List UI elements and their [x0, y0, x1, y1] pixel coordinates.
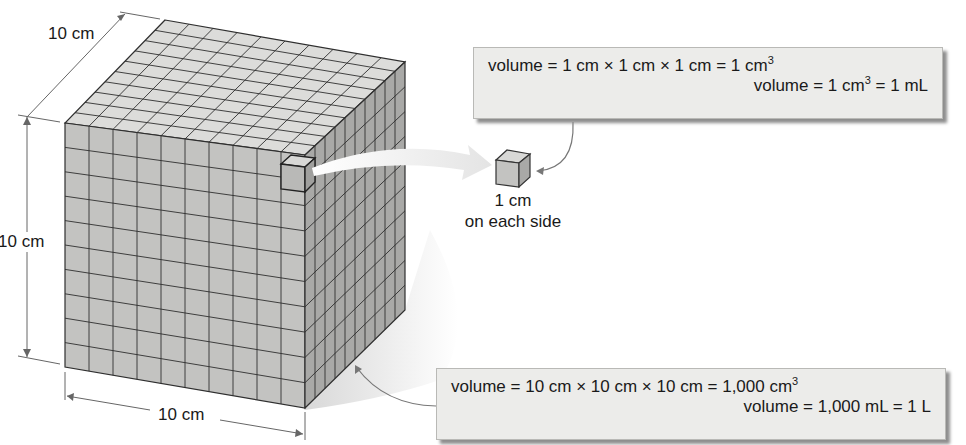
unit-volume-line2: volume = 1 cm3 = 1 mL: [488, 76, 928, 96]
unit-volume-line1: volume = 1 cm × 1 cm × 1 cm = 1 cm3: [488, 56, 928, 76]
width-label: 10 cm: [156, 405, 206, 425]
highlighted-unit-cube: [281, 155, 315, 192]
unit-cube-caption-2: on each side: [443, 211, 583, 232]
exponent: 3: [768, 54, 774, 66]
unit-volume-equivalence: volume = 1 cm: [754, 76, 865, 95]
exponent: 3: [792, 375, 798, 387]
total-volume-box: volume = 10 cm × 10 cm × 10 cm = 1,000 c…: [436, 368, 946, 440]
unit-volume-box: volume = 1 cm × 1 cm × 1 cm = 1 cm3 volu…: [473, 47, 943, 119]
unit-cube-note: on each side: [443, 211, 583, 232]
total-volume-formula: volume = 10 cm × 10 cm × 10 cm = 1,000 c…: [451, 377, 792, 396]
unit-cube-size: 1 cm: [472, 190, 554, 211]
unit-cube: [496, 150, 530, 187]
height-label: 10 cm: [0, 232, 46, 252]
small-box-leader-line: [538, 122, 573, 171]
total-volume-line1: volume = 10 cm × 10 cm × 10 cm = 1,000 c…: [451, 377, 931, 397]
total-volume-line2: volume = 1,000 mL = 1 L: [451, 397, 931, 417]
depth-label: 10 cm: [46, 24, 96, 44]
unit-volume-formula: volume = 1 cm × 1 cm × 1 cm = 1 cm: [488, 56, 768, 75]
unit-volume-ml: = 1 mL: [871, 76, 928, 95]
leader-arrowhead-icon: [536, 167, 544, 175]
unit-cube-caption: 1 cm: [472, 190, 554, 211]
